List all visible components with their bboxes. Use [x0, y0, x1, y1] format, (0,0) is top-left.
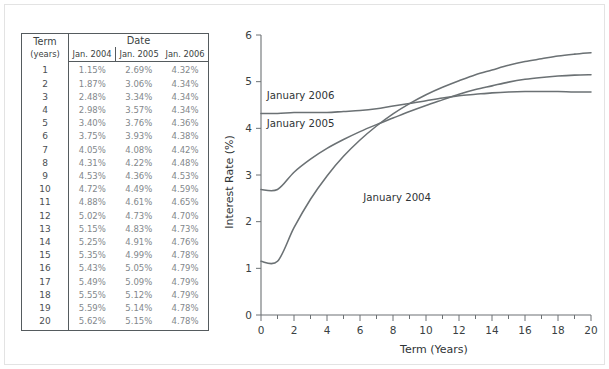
cell-jan2005: 3.06% — [116, 78, 163, 91]
cell-jan2004: 5.02% — [69, 210, 116, 223]
cell-jan2006: 4.59% — [162, 183, 208, 196]
cell-jan2005: 5.09% — [116, 276, 163, 289]
cell-jan2004: 5.43% — [69, 262, 116, 275]
cell-jan2005: 3.57% — [116, 104, 163, 117]
y-tick-label: 5 — [245, 75, 252, 87]
cell-term: 19 — [22, 302, 69, 315]
cell-jan2004: 5.49% — [69, 276, 116, 289]
table-body: 11.15%2.69%4.32%21.87%3.06%4.34%32.48%3.… — [22, 62, 208, 331]
table-row: 185.55%5.12%4.79% — [22, 289, 208, 302]
cell-jan2004: 5.25% — [69, 236, 116, 249]
table-header-row-group: Term (years) Date — [22, 34, 208, 47]
y-tick-label: 3 — [245, 169, 252, 181]
cell-term: 13 — [22, 223, 69, 236]
cell-term: 2 — [22, 78, 69, 91]
cell-jan2006: 4.70% — [162, 210, 208, 223]
figure-inner: Term (years) Date Jan. 2004 Jan. 2005 Ja… — [5, 5, 604, 364]
table-row: 155.35%4.99%4.78% — [22, 249, 208, 262]
cell-jan2004: 5.59% — [69, 302, 116, 315]
cell-jan2005: 4.49% — [116, 183, 163, 196]
cell-jan2004: 4.72% — [69, 183, 116, 196]
cell-jan2004: 5.55% — [69, 289, 116, 302]
cell-term: 16 — [22, 262, 69, 275]
cell-term: 17 — [22, 276, 69, 289]
table-row: 114.88%4.61%4.65% — [22, 196, 208, 209]
cell-term: 11 — [22, 196, 69, 209]
cell-term: 20 — [22, 315, 69, 330]
cell-term: 15 — [22, 249, 69, 262]
cell-jan2006: 4.53% — [162, 170, 208, 183]
cell-jan2004: 2.48% — [69, 91, 116, 104]
cell-term: 12 — [22, 210, 69, 223]
table-row: 94.53%4.36%4.53% — [22, 170, 208, 183]
x-tick-label: 2 — [291, 324, 298, 336]
rates-table: Term (years) Date Jan. 2004 Jan. 2005 Ja… — [22, 34, 208, 330]
x-tick-label: 14 — [485, 324, 499, 336]
cell-jan2004: 5.35% — [69, 249, 116, 262]
cell-jan2004: 5.15% — [69, 223, 116, 236]
curve-label-january-2006: January 2006 — [266, 90, 335, 101]
curves-layer — [261, 53, 591, 264]
table-row: 63.75%3.93%4.38% — [22, 130, 208, 143]
interest-rate-table: Term (years) Date Jan. 2004 Jan. 2005 Ja… — [21, 33, 209, 331]
table-row: 125.02%4.73%4.70% — [22, 210, 208, 223]
axes-layer: 012345602468101214161820 — [245, 29, 597, 336]
header-term-label: Term — [22, 35, 68, 48]
cell-term: 18 — [22, 289, 69, 302]
cell-jan2006: 4.34% — [162, 104, 208, 117]
cell-jan2005: 5.12% — [116, 289, 163, 302]
header-term: Term (years) — [22, 34, 69, 62]
table-row: 84.31%4.22%4.48% — [22, 157, 208, 170]
cell-jan2004: 4.31% — [69, 157, 116, 170]
cell-jan2006: 4.36% — [162, 117, 208, 130]
cell-term: 8 — [22, 157, 69, 170]
x-tick-label: 12 — [452, 324, 465, 336]
cell-jan2006: 4.42% — [162, 144, 208, 157]
cell-term: 7 — [22, 144, 69, 157]
x-tick-label: 10 — [419, 324, 432, 336]
table-head: Term (years) Date Jan. 2004 Jan. 2005 Ja… — [22, 34, 208, 62]
figure-frame: Term (years) Date Jan. 2004 Jan. 2005 Ja… — [4, 4, 605, 365]
cell-jan2006: 4.79% — [162, 289, 208, 302]
cell-jan2006: 4.34% — [162, 91, 208, 104]
cell-jan2005: 2.69% — [116, 62, 163, 78]
curve-labels-layer: January 2004January 2004January 2005Janu… — [266, 90, 431, 202]
table-row: 32.48%3.34%4.34% — [22, 91, 208, 104]
cell-jan2006: 4.76% — [162, 236, 208, 249]
table-row: 42.98%3.57%4.34% — [22, 104, 208, 117]
cell-jan2004: 2.98% — [69, 104, 116, 117]
table-row: 21.87%3.06%4.34% — [22, 78, 208, 91]
table-row: 145.25%4.91%4.76% — [22, 236, 208, 249]
table-row: 135.15%4.83%4.73% — [22, 223, 208, 236]
x-tick-label: 16 — [518, 324, 532, 336]
cell-jan2005: 3.34% — [116, 91, 163, 104]
table-row: 53.40%3.76%4.36% — [22, 117, 208, 130]
cell-jan2004: 4.88% — [69, 196, 116, 209]
y-tick-label: 0 — [245, 309, 252, 321]
cell-jan2005: 4.99% — [116, 249, 163, 262]
chart-svg: 012345602468101214161820 January 2004Jan… — [219, 17, 601, 361]
cell-jan2006: 4.48% — [162, 157, 208, 170]
header-jan-2005: Jan. 2005 — [116, 47, 163, 62]
cell-jan2004: 4.05% — [69, 144, 116, 157]
cell-jan2004: 3.40% — [69, 117, 116, 130]
cell-jan2006: 4.78% — [162, 249, 208, 262]
cell-jan2006: 4.78% — [162, 315, 208, 330]
x-tick-label: 20 — [584, 324, 597, 336]
cell-term: 6 — [22, 130, 69, 143]
x-tick-label: 18 — [551, 324, 564, 336]
cell-jan2004: 4.53% — [69, 170, 116, 183]
table-row: 11.15%2.69%4.32% — [22, 62, 208, 78]
cell-jan2005: 4.91% — [116, 236, 163, 249]
cell-jan2005: 4.22% — [116, 157, 163, 170]
yield-curve-chart: 012345602468101214161820 January 2004Jan… — [219, 17, 601, 361]
cell-jan2005: 4.08% — [116, 144, 163, 157]
cell-jan2004: 3.75% — [69, 130, 116, 143]
table-row: 74.05%4.08%4.42% — [22, 144, 208, 157]
cell-term: 4 — [22, 104, 69, 117]
curve-label-january-2004: January 2004 — [362, 192, 431, 203]
cell-jan2005: 5.15% — [116, 315, 163, 330]
cell-term: 14 — [22, 236, 69, 249]
cell-jan2005: 5.14% — [116, 302, 163, 315]
y-tick-label: 4 — [245, 122, 252, 134]
